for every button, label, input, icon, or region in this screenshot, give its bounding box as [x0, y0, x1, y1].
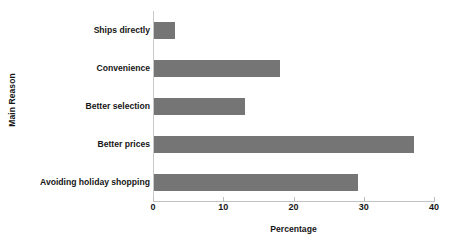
x-axis-title: Percentage [153, 224, 434, 234]
x-axis-tick-label: 10 [218, 202, 228, 212]
x-axis-tick-labels: 010203040 [153, 202, 434, 216]
bar [154, 60, 280, 77]
y-axis-tick-label: Better selection [24, 101, 150, 111]
y-axis-tick-labels: Ships directlyConvenienceBetter selectio… [24, 11, 150, 201]
bar [154, 22, 175, 39]
y-axis-title-text: Main Reason [7, 73, 17, 127]
y-axis-tick-label: Better prices [24, 139, 150, 149]
x-axis-tick-label: 30 [359, 202, 369, 212]
bar [154, 98, 245, 115]
bar [154, 136, 414, 153]
y-axis-tick-label: Ships directly [24, 25, 150, 35]
x-axis-tick-label: 40 [429, 202, 439, 212]
y-axis-tick-label: Avoiding holiday shopping [24, 177, 150, 187]
x-axis-tick-label: 0 [150, 202, 155, 212]
x-axis-tick-label: 20 [288, 202, 298, 212]
y-axis-tick-label: Convenience [24, 63, 150, 73]
bar-chart: Main Reason Ships directlyConvenienceBet… [0, 0, 466, 251]
plot-area [153, 11, 434, 201]
bar [154, 174, 358, 191]
y-axis-title: Main Reason [0, 0, 24, 200]
